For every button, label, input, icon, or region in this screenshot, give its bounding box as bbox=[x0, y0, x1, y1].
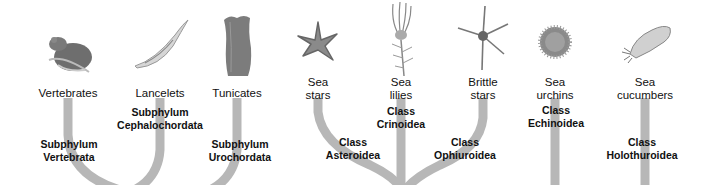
taxon-rank: Class bbox=[326, 136, 380, 149]
taxon-rank: Class bbox=[377, 105, 425, 118]
organism-name-line-2: cucumbers bbox=[600, 89, 690, 102]
organism-name-line-1: Sea bbox=[510, 76, 600, 89]
taxon-name: Crinoidea bbox=[377, 118, 425, 131]
taxon-rank: Subphylum bbox=[117, 106, 203, 119]
organism-name-line-1: Sea bbox=[356, 76, 446, 89]
organism-name-line-2: stars bbox=[273, 89, 363, 102]
taxon-name: Ophiuroidea bbox=[434, 149, 496, 162]
organism-name-line-1: Sea bbox=[600, 76, 690, 89]
organism-name-line-2: urchins bbox=[510, 89, 600, 102]
sea-urchin-icon bbox=[510, 0, 600, 80]
taxon-label-echinoidea: Class Echinoidea bbox=[528, 104, 584, 130]
taxon-rank: Class bbox=[434, 136, 496, 149]
organism-name-line-2: lilies bbox=[356, 89, 446, 102]
taxon-label-vertebrata: Subphylum Vertebrata bbox=[40, 138, 97, 164]
taxon-rank: Subphylum bbox=[209, 138, 271, 151]
taxon-rank: Class bbox=[606, 136, 677, 149]
taxon-label-crinoidea: Class Crinoidea bbox=[377, 105, 425, 131]
taxon-label-holothuroidea: Class Holothuroidea bbox=[606, 136, 677, 162]
taxon-name: Urochordata bbox=[209, 151, 271, 164]
tunicate-icon bbox=[192, 0, 282, 80]
taxon-label-asteroidea: Class Asteroidea bbox=[326, 136, 380, 162]
organism-name: Vertebrates bbox=[23, 87, 113, 100]
taxon-name: Echinoidea bbox=[528, 117, 584, 130]
sea-star-icon bbox=[273, 0, 363, 80]
taxon-rank: Class bbox=[528, 104, 584, 117]
sea-cucumber-icon bbox=[600, 0, 690, 80]
taxon-rank: Subphylum bbox=[40, 138, 97, 151]
taxon-name: Holothuroidea bbox=[606, 149, 677, 162]
sea-lily-icon bbox=[356, 0, 446, 80]
taxon-label-cephalochordata: Subphylum Cephalochordata bbox=[117, 106, 203, 132]
taxon-label-urochordata: Subphylum Urochordata bbox=[209, 138, 271, 164]
mouse-icon bbox=[23, 0, 113, 80]
taxon-name: Vertebrata bbox=[40, 151, 97, 164]
taxon-label-ophiuroidea: Class Ophiuroidea bbox=[434, 136, 496, 162]
organism-name: Tunicates bbox=[192, 87, 282, 100]
organism-name-line-1: Sea bbox=[273, 76, 363, 89]
taxon-name: Cephalochordata bbox=[117, 119, 203, 132]
taxon-name: Asteroidea bbox=[326, 149, 380, 162]
